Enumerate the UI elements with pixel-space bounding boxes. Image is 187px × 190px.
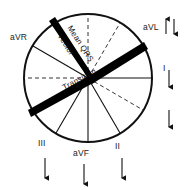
lead-label-II: II [115, 142, 120, 151]
lead-label-aVF: aVF [73, 149, 89, 158]
lead-label-aVR: aVR [10, 33, 27, 42]
lead-label-aVL: aVL [143, 23, 159, 32]
hexaxial-diagram: aVR aVL I II aVF III Mean QRS Vector Tra… [0, 0, 187, 190]
lead-label-I: I [163, 64, 166, 73]
lead-label-III: III [38, 139, 46, 148]
